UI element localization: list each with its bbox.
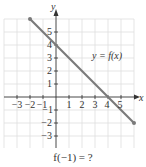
y-tick-label: 5 bbox=[47, 26, 52, 37]
grid bbox=[4, 19, 134, 148]
y-tick-label: −1 bbox=[42, 104, 53, 115]
question-caption: f(−1) = ? bbox=[0, 151, 146, 163]
x-tick-label: 1 bbox=[67, 99, 72, 110]
y-tick-label: 4 bbox=[47, 39, 52, 50]
y-tick-label: 1 bbox=[47, 78, 52, 89]
y-axis-label: y bbox=[50, 1, 56, 12]
endpoint-right bbox=[132, 121, 136, 125]
y-tick-label: −3 bbox=[41, 130, 52, 141]
y-tick-label: 2 bbox=[47, 65, 52, 76]
x-tick-label: 2 bbox=[80, 99, 85, 110]
x-tick-label: 4 bbox=[105, 99, 110, 110]
x-tick-label: 5 bbox=[118, 99, 123, 110]
endpoint-left bbox=[28, 17, 32, 21]
x-tick-label: 3 bbox=[93, 99, 98, 110]
function-label: y = f(x) bbox=[91, 50, 123, 62]
coordinate-plane: y x −3 −2 −1 1 2 3 4 5 5 4 3 2 1 −1 −2 −… bbox=[0, 0, 146, 150]
y-tick-label: 3 bbox=[47, 52, 52, 63]
x-tick-label: −3 bbox=[12, 99, 23, 110]
x-tick-label: −2 bbox=[25, 99, 36, 110]
x-axis-label: x bbox=[138, 92, 144, 103]
y-tick-label: −2 bbox=[41, 117, 52, 128]
